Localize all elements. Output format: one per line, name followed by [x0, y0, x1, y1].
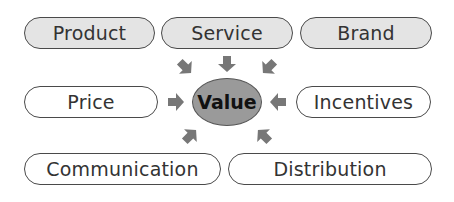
arrow-distribution-icon — [252, 124, 276, 148]
arrow-price-icon — [168, 93, 184, 111]
arrow-communication-icon — [178, 124, 202, 148]
arrow-brand-icon — [257, 55, 281, 79]
arrows-layer — [0, 0, 454, 202]
arrow-product-icon — [173, 55, 197, 79]
arrow-service-icon — [218, 56, 236, 72]
arrow-incentives-icon — [270, 93, 286, 111]
